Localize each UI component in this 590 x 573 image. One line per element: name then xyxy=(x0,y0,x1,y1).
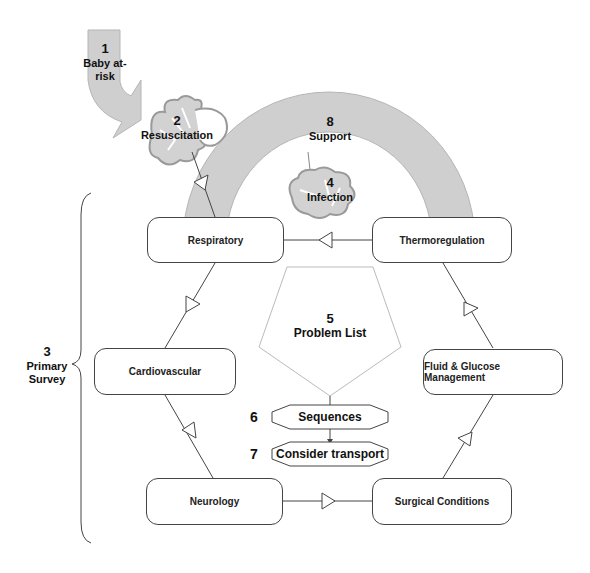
sequences-number: 6 xyxy=(250,409,258,425)
node-respiratory: Respiratory xyxy=(147,217,284,263)
primary-survey-brace xyxy=(72,193,91,543)
connector-arrow-icon xyxy=(319,232,332,248)
problem-list-label: 5 Problem List xyxy=(280,312,380,341)
connector-arrow-icon xyxy=(464,302,478,316)
connector-arrow-icon xyxy=(186,296,200,312)
primary-survey-label: 3 Primary Survey xyxy=(22,345,72,385)
resuscitation-label: 2 Resuscitation xyxy=(138,114,216,142)
node-cardiovascular: Cardiovascular xyxy=(94,348,236,395)
consider-transport-number: 7 xyxy=(250,446,258,462)
support-label: 8 Support xyxy=(290,115,370,143)
consider-transport-text: Consider transport xyxy=(272,447,388,461)
sequences-text: Sequences xyxy=(272,410,388,424)
connector-arrow-icon xyxy=(458,432,472,446)
node-neurology: Neurology xyxy=(146,478,283,525)
node-surgical-conditions: Surgical Conditions xyxy=(372,478,512,525)
baby-at-risk-label: 1 Baby at- risk xyxy=(80,42,130,82)
node-thermoregulation: Thermoregulation xyxy=(372,217,512,263)
node-fluid-glucose: Fluid & Glucose Management xyxy=(423,349,563,395)
infection-label: 4 Infection xyxy=(295,176,365,204)
connector-arrow-icon xyxy=(322,493,335,509)
